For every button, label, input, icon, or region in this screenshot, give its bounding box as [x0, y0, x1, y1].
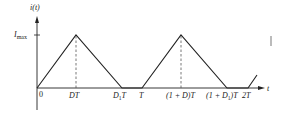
tick-zero: 0	[39, 90, 43, 99]
y-axis-arrow-icon	[35, 16, 39, 23]
tick-dt: DT	[69, 91, 79, 100]
tick-one-plus-d1: (1 + D1)T	[206, 91, 238, 101]
tick-2t: 2T	[242, 91, 250, 100]
page-edge-mark	[270, 36, 272, 46]
x-axis-label: t	[267, 84, 269, 93]
tick-t: T	[139, 91, 143, 100]
x-axis-arrow-icon	[258, 86, 265, 90]
tick-one-plus-d: (1 + D)T	[166, 91, 195, 100]
current-waveform	[37, 35, 257, 88]
y-axis-label: i(t)	[30, 3, 40, 12]
imax-label: Imax	[14, 30, 27, 40]
tick-d1t: D1T	[113, 91, 126, 101]
